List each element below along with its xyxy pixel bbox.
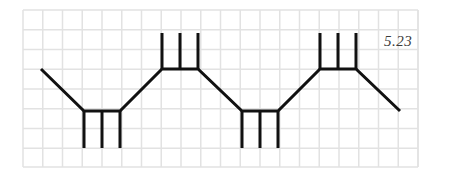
figure-canvas	[0, 0, 463, 172]
figure-number-label: 5.23	[384, 33, 412, 50]
